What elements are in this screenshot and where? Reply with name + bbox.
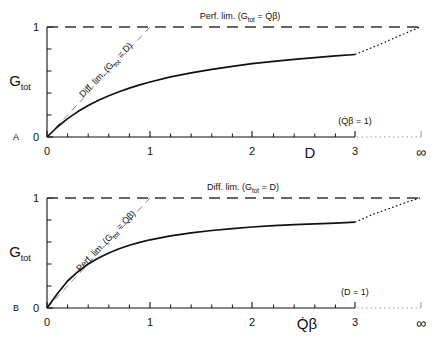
- panel-a-curve: [47, 55, 355, 138]
- panel-a-x-tick-label-infinity: ∞: [416, 144, 426, 160]
- panel-b-x-tick-label-1: 1: [147, 316, 153, 328]
- panel-b-x-tick-label-3: 3: [352, 316, 358, 328]
- panel-b: 0 1 0 1 2 3 ∞ Q̇β Gtot B Diff. lim. (Gto…: [0, 171, 439, 342]
- panel-a-x-axis-label: D: [305, 144, 316, 161]
- panel-b-plateau-label: Diff. lim. (Gtot = D): [207, 182, 279, 194]
- panel-b-curve: [47, 222, 355, 308]
- panel-a-letter: A: [13, 132, 19, 142]
- panel-a-corner-note: (Q̇β = 1): [338, 116, 371, 126]
- panel-b-plot: 0 1 0 1 2 3 ∞ Q̇β Gtot B Diff. lim. (Gto…: [0, 171, 439, 342]
- panel-a-plot: 0 1 0 1 2 3 ∞ D Gtot A Perf. lim. (Gtot …: [0, 0, 439, 171]
- panel-b-y-tick-label-1: 1: [33, 192, 39, 204]
- panel-a-plateau-label: Perf. lim. (Gtot = Q̇β): [200, 11, 281, 23]
- panel-b-curve-extrapolation: [355, 198, 420, 222]
- panel-b-y-axis-label: Gtot: [9, 243, 31, 263]
- figure-container: 0 1 0 1 2 3 ∞ D Gtot A Perf. lim. (Gtot …: [0, 0, 439, 342]
- panel-b-x-tick-label-2: 2: [249, 316, 255, 328]
- panel-a-x-tick-label-1: 1: [147, 145, 153, 157]
- panel-b-x-tick-label-infinity: ∞: [416, 315, 426, 331]
- panel-a-curve-extrapolation: [355, 27, 420, 55]
- panel-a-x-tick-label-0: 0: [44, 145, 50, 157]
- panel-b-x-tick-label-0: 0: [44, 316, 50, 328]
- panel-a-y-tick-label-0: 0: [33, 131, 39, 143]
- panel-b-letter: B: [13, 303, 19, 313]
- panel-b-corner-note: (D = 1): [341, 287, 369, 297]
- panel-a-diagonal-label: Diff. lim. (Gtot = D): [77, 41, 135, 101]
- panel-a: 0 1 0 1 2 3 ∞ D Gtot A Perf. lim. (Gtot …: [0, 0, 439, 171]
- panel-b-y-tick-label-0: 0: [33, 302, 39, 314]
- panel-b-diagonal-label: Perf. lim. (Gtot = Q̇β): [74, 208, 139, 274]
- panel-a-y-tick-label-1: 1: [33, 21, 39, 33]
- panel-b-x-axis-label: Q̇β: [297, 315, 318, 332]
- panel-a-x-tick-label-2: 2: [249, 145, 255, 157]
- panel-a-x-tick-label-3: 3: [352, 145, 358, 157]
- panel-a-y-axis-label: Gtot: [9, 72, 31, 92]
